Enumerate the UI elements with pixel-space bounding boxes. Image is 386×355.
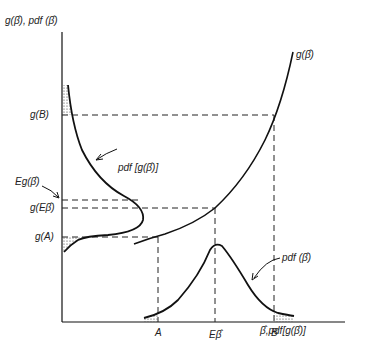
tick-B: B (271, 327, 278, 338)
pdf-beta-curve (144, 245, 294, 318)
tick-g-Eb: g(Eβ̂) (30, 202, 55, 213)
diagram-canvas: g(β̂), pdf (β̂) g(β̂) pdf [g(β̂)] pdf (β… (0, 0, 386, 355)
tick-g-B: g(B) (30, 109, 49, 120)
pdf-g-arrow (96, 149, 117, 160)
x-axis-label: β̂,pdf[g(β̂)] (259, 325, 306, 336)
guide-lines (62, 115, 274, 322)
tick-Eb: Eβ̂ (209, 329, 223, 340)
y-axis-label: g(β̂), pdf (β̂) (5, 15, 58, 26)
tick-g-A: g(A) (35, 231, 54, 242)
transformation-bias-diagram: g(β̂), pdf (β̂) g(β̂) pdf [g(β̂)] pdf (β… (0, 0, 386, 355)
pdf-beta-label: pdf (β̂) (281, 252, 311, 263)
tick-A: A (154, 327, 162, 338)
g-beta-curve (134, 52, 293, 244)
pdf-g-beta-label: pdf [g(β̂)] (117, 162, 158, 173)
g-beta-label: g(β̂) (296, 49, 314, 60)
pdf-beta-arrow (254, 258, 280, 278)
eg-arrow (42, 186, 58, 197)
tick-Eg: Eg(β̂) (15, 176, 40, 187)
